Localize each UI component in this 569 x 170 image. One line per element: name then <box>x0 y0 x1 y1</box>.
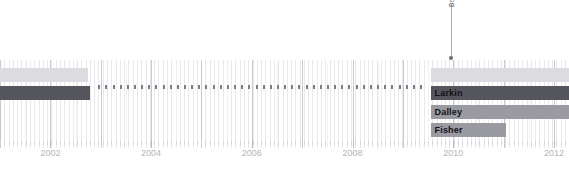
midline-marker <box>298 85 300 89</box>
gridline-minor <box>419 60 420 148</box>
gridline-minor <box>415 60 416 148</box>
midline-marker <box>248 85 250 89</box>
gridline-minor <box>317 60 318 148</box>
axis-tick-minor <box>163 141 164 145</box>
gridline-major <box>227 62 228 148</box>
axis-tick-minor <box>544 141 545 145</box>
bar-segment[interactable] <box>0 86 90 100</box>
axis-tick-minor <box>479 141 480 145</box>
bar-segment[interactable] <box>431 68 569 82</box>
axis-tick-minor <box>26 141 27 145</box>
midline-marker <box>399 85 401 89</box>
midline-marker <box>341 85 343 89</box>
axis-label-2004: 2004 <box>141 148 161 158</box>
gridline-minor <box>180 60 181 148</box>
gridline-minor <box>163 60 164 148</box>
axis-tick-minor <box>368 141 369 145</box>
gridline-minor <box>184 60 185 148</box>
axis-tick-minor <box>39 141 40 145</box>
axis-label-2006: 2006 <box>242 148 262 158</box>
axis-tick-minor <box>497 141 498 145</box>
midline-marker <box>220 85 222 89</box>
axis-tick-minor <box>244 141 245 145</box>
axis-tick-minor <box>377 141 378 145</box>
gridline-major <box>327 62 328 148</box>
plot-area: Bobby Dazzler Larkin Dalley Fisher <box>0 0 569 148</box>
midline-marker <box>105 85 107 89</box>
axis-tick-minor <box>98 141 99 145</box>
gridline-minor <box>231 60 232 148</box>
axis-tick-minor <box>146 141 147 145</box>
gridline-minor <box>270 60 271 148</box>
gridline-minor <box>205 60 206 148</box>
midline-marker <box>348 85 350 89</box>
axis-tick-minor <box>441 141 442 145</box>
gridline-major <box>302 60 303 148</box>
axis-label-2012: 2012 <box>544 148 564 158</box>
midline-marker <box>313 85 315 89</box>
gridline-major <box>378 62 379 148</box>
axis-tick-minor <box>201 141 202 145</box>
gridline-minor <box>158 60 159 148</box>
gridline-minor <box>291 60 292 148</box>
bar-label-larkin: Larkin <box>435 89 463 98</box>
gridline-minor <box>103 60 104 148</box>
bar-segment[interactable] <box>0 68 88 82</box>
gridline-minor <box>218 60 219 148</box>
axis-tick-minor <box>90 141 91 145</box>
axis-tick-minor <box>390 141 391 145</box>
axis-tick-minor <box>111 141 112 145</box>
midline-marker <box>234 85 236 89</box>
gridline-minor <box>111 60 112 148</box>
axis-tick-minor <box>312 141 313 145</box>
axis-tick-minor <box>419 141 420 145</box>
gridline-minor <box>300 60 301 148</box>
midline-marker <box>377 85 379 89</box>
gridline-major <box>403 60 404 148</box>
gridline-minor <box>411 60 412 148</box>
gridline-minor <box>223 60 224 148</box>
gridline-minor <box>347 60 348 148</box>
midline-marker <box>320 85 322 89</box>
axis-tick-minor <box>381 141 382 145</box>
midline-marker <box>391 85 393 89</box>
axis-tick-minor <box>60 141 61 145</box>
gridline-minor <box>257 60 258 148</box>
axis-tick-minor <box>9 141 10 145</box>
axis-tick-minor <box>94 141 95 145</box>
gridline-minor <box>154 60 155 148</box>
axis-tick-minor <box>334 141 335 145</box>
axis-tick-minor <box>411 141 412 145</box>
axis-tick-minor <box>197 141 198 145</box>
axis-tick-minor <box>47 141 48 145</box>
axis-tick-minor <box>17 141 18 145</box>
axis-tick-minor <box>407 141 408 145</box>
gridline-minor <box>364 60 365 148</box>
gridline-major <box>201 60 202 148</box>
axis-tick-minor <box>342 141 343 145</box>
axis-tick-minor <box>257 141 258 145</box>
axis-tick-minor <box>492 141 493 145</box>
axis-tick-minor <box>467 141 468 145</box>
midline-marker <box>205 85 207 89</box>
midline-marker <box>148 85 150 89</box>
axis-tick-major <box>453 141 454 148</box>
axis-tick-minor <box>321 141 322 145</box>
gridline-minor <box>338 60 339 148</box>
gridline-minor <box>278 60 279 148</box>
axis-tick-minor <box>548 141 549 145</box>
axis-tick-minor <box>210 141 211 145</box>
midline-marker <box>270 85 272 89</box>
gridline-minor <box>120 60 121 148</box>
gridline-minor <box>214 60 215 148</box>
axis-tick-minor <box>424 141 425 145</box>
gridline-minor <box>197 60 198 148</box>
axis-tick-minor <box>107 141 108 145</box>
axis-tick-minor <box>86 141 87 145</box>
axis-tick-minor <box>364 141 365 145</box>
axis-tick-minor <box>295 141 296 145</box>
axis-tick-minor <box>338 141 339 145</box>
midline-marker <box>241 85 243 89</box>
axis-tick-minor <box>176 141 177 145</box>
axis-tick-minor <box>21 141 22 145</box>
